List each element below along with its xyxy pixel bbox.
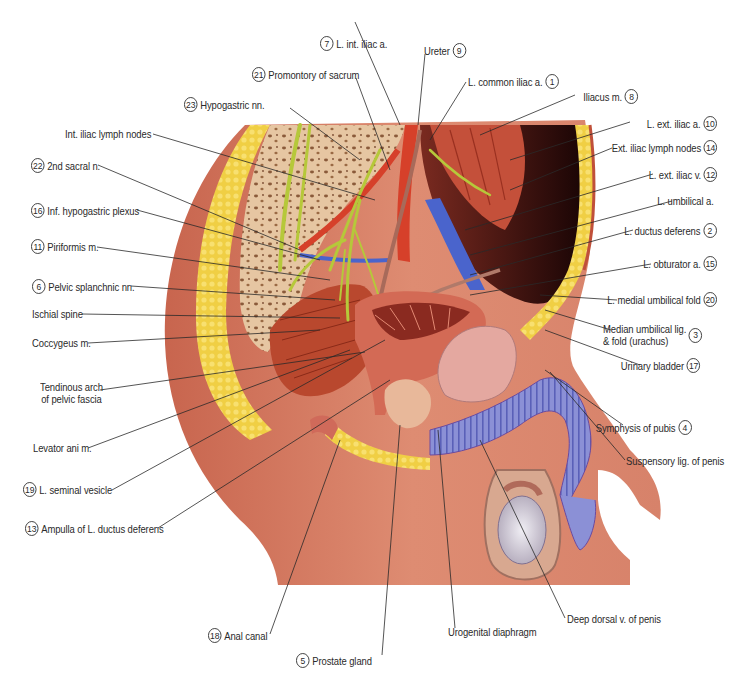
label-int-iliac-lymph-nodes: Int. iliac lymph nodes — [65, 128, 151, 140]
label-text: Levator ani m. — [33, 442, 92, 454]
label-text: Deep dorsal v. of penis — [567, 613, 661, 625]
label-text: Coccygeus m. — [32, 337, 91, 349]
label-text: Symphysis of pubis — [596, 422, 676, 434]
label-l-umbilical-artery: L. umbilical a. — [658, 195, 714, 207]
label-number: 1 — [545, 74, 559, 89]
label-text: Pelvic splanchnic nn. — [48, 281, 134, 293]
label-number: 3 — [689, 328, 703, 343]
label-number: 11 — [31, 239, 45, 254]
label-text: Int. iliac lymph nodes — [65, 128, 151, 140]
label-text: L. int. iliac a. — [336, 38, 387, 50]
label-number: 8 — [625, 89, 639, 104]
label-text: Ext. iliac lymph nodes — [611, 142, 700, 154]
label-text: Piriformis m. — [47, 241, 98, 253]
label-number: 9 — [452, 43, 466, 58]
label-l-ext-iliac-artery: L. ext. iliac a. 10 — [647, 116, 717, 131]
label-suspensory-ligament-of-penis: Suspensory lig. of penis — [626, 455, 724, 467]
label-number: 18 — [208, 628, 222, 643]
label-number: 5 — [296, 653, 310, 668]
label-number: 10 — [704, 116, 718, 131]
label-ext-iliac-lymph-nodes: Ext. iliac lymph nodes 14 — [611, 140, 717, 155]
label-l-obturator-artery: L. obturator a. 15 — [643, 256, 717, 271]
label-text: L. medial umbilical fold — [607, 294, 700, 306]
label-number: 6 — [32, 279, 46, 294]
label-text: Promontory of sacrum — [268, 69, 359, 81]
label-prostate-gland: 5 Prostate gland — [296, 653, 372, 668]
label-number: 13 — [25, 521, 39, 536]
label-piriformis-muscle: 11 Piriformis m. — [31, 239, 99, 254]
label-l-seminal-vesicle: 19 L. seminal vesicle — [23, 482, 112, 497]
label-text: 2nd sacral n. — [47, 160, 100, 172]
label-text: Urogenital diaphragm — [448, 626, 537, 638]
label-anal-canal: 18 Anal canal — [208, 628, 267, 643]
label-text-line2: & fold (urachus) — [603, 335, 686, 347]
label-text: L. ext. iliac a. — [647, 118, 701, 130]
label-ureter: Ureter 9 — [424, 43, 466, 58]
label-inf-hypogastric-plexus: 16 Inf. hypogastric plexus — [31, 203, 139, 218]
label-number: 20 — [704, 292, 718, 307]
label-hypogastric-nerves: 23 Hypogastric nn. — [184, 97, 265, 112]
label-number: 2 — [704, 223, 718, 238]
label-deep-dorsal-vein-of-penis: Deep dorsal v. of penis — [567, 613, 661, 625]
testis — [498, 496, 546, 564]
label-text: Ampulla of L. ductus deferens — [41, 523, 163, 535]
label-number: 22 — [31, 158, 45, 173]
label-text: Inf. hypogastric plexus — [47, 205, 139, 217]
label-l-int-iliac-artery: 7 L. int. iliac a. — [320, 36, 387, 51]
label-text: Urinary bladder — [621, 360, 684, 372]
label-number: 15 — [704, 256, 718, 271]
label-number: 23 — [184, 97, 198, 112]
label-text: Ureter — [424, 45, 450, 57]
label-text: Iliacus m. — [583, 91, 622, 103]
label-number: 12 — [704, 167, 718, 182]
label-coccygeus-muscle: Coccygeus m. — [32, 337, 91, 349]
label-l-ext-iliac-vein: L. ext. iliac v. 12 — [648, 167, 717, 182]
label-text: L. seminal vesicle — [39, 484, 112, 496]
label-2nd-sacral-nerve: 22 2nd sacral n. — [31, 158, 100, 173]
label-text: L. ext. iliac v. — [648, 169, 700, 181]
label-text: L. ductus deferens — [625, 225, 701, 237]
label-median-umbilical-ligament: Median umbilical lig. & fold (urachus) 3 — [603, 323, 702, 347]
label-levator-ani-muscle: Levator ani m. — [33, 442, 92, 454]
label-text: Tendinous arch — [40, 381, 103, 393]
label-number: 4 — [679, 420, 693, 435]
label-ischial-spine: Ischial spine — [32, 308, 83, 320]
label-text: L. common iliac a. — [468, 76, 543, 88]
label-tendinous-arch: Tendinous arch of pelvic fascia — [40, 381, 103, 405]
label-ampulla-of-ductus-deferens: 13 Ampulla of L. ductus deferens — [25, 521, 164, 536]
label-text: Hypogastric nn. — [200, 99, 264, 111]
label-l-medial-umbilical-fold: L. medial umbilical fold 20 — [607, 292, 717, 307]
label-text-line2: of pelvic fascia — [40, 393, 103, 405]
label-text: Anal canal — [224, 630, 267, 642]
label-symphysis-of-pubis: Symphysis of pubis 4 — [596, 420, 692, 435]
label-number: 21 — [252, 67, 266, 82]
label-text: Prostate gland — [312, 655, 372, 667]
label-number: 19 — [23, 482, 37, 497]
label-iliacus-muscle: Iliacus m. 8 — [583, 89, 638, 104]
label-urinary-bladder: Urinary bladder 17 — [621, 358, 700, 373]
pelvis-diagram: 7 L. int. iliac a. Ureter 9 21 Promontor… — [0, 0, 750, 687]
label-number: 16 — [31, 203, 45, 218]
label-text: L. obturator a. — [643, 258, 700, 270]
label-pelvic-splanchnic-nerves: 6 Pelvic splanchnic nn. — [32, 279, 135, 294]
label-promontory-of-sacrum: 21 Promontory of sacrum — [252, 67, 359, 82]
label-text: Median umbilical lig. — [603, 323, 686, 335]
label-number: 14 — [704, 140, 718, 155]
label-number: 17 — [687, 358, 701, 373]
label-text: L. umbilical a. — [658, 195, 714, 207]
label-text: Ischial spine — [32, 308, 83, 320]
label-text: Suspensory lig. of penis — [626, 455, 724, 467]
label-urogenital-diaphragm: Urogenital diaphragm — [448, 626, 537, 638]
label-number: 7 — [320, 36, 334, 51]
label-l-ductus-deferens: L. ductus deferens 2 — [625, 223, 717, 238]
label-l-common-iliac-artery: L. common iliac a. 1 — [468, 74, 559, 89]
